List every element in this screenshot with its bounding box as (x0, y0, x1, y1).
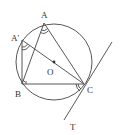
center-point-o (53, 61, 56, 64)
label-t: T (70, 122, 76, 132)
label-o: O (47, 67, 54, 77)
right-angle-mark-b (23, 80, 26, 84)
tangent-line (64, 42, 112, 120)
label-a-prime: A' (11, 33, 19, 43)
geometry-diagram: A A' B C O T (0, 0, 120, 135)
angle-mark-a-2 (41, 31, 49, 34)
angle-mark-c (78, 84, 81, 89)
angle-mark-a (42, 29, 48, 31)
label-a: A (41, 10, 48, 20)
angle-mark-a-prime (22, 44, 28, 47)
label-c: C (87, 85, 93, 95)
label-b: B (15, 89, 21, 99)
